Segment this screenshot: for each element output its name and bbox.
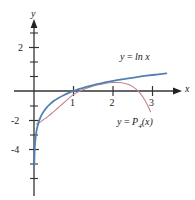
axes-group	[14, 19, 182, 196]
graph-canvas	[0, 0, 195, 200]
y-tick-label-2: 2	[18, 43, 23, 53]
y-axis-arrowhead	[31, 19, 38, 28]
annotation-poly-curve: y = P4(x)	[117, 117, 153, 130]
x-axis-label: x	[185, 84, 189, 94]
y-tick-label-minus-2: -2	[11, 116, 19, 126]
annotation-poly-argument: (x)	[142, 116, 153, 127]
x-tick-label-1: 1	[70, 98, 75, 108]
x-tick-label-3: 3	[149, 98, 154, 108]
figure-container: y x 1 2 3 2 -2 -4 y = ln x y = P4(x)	[0, 0, 195, 200]
x-axis-arrowhead	[173, 88, 182, 95]
annotation-ln-curve: y = ln x	[120, 52, 150, 62]
y-axis-label: y	[31, 9, 35, 19]
y-tick-label-minus-4: -4	[11, 145, 19, 155]
annotation-ln-rhs: ln x	[135, 51, 150, 62]
x-tick-label-2: 2	[110, 98, 115, 108]
